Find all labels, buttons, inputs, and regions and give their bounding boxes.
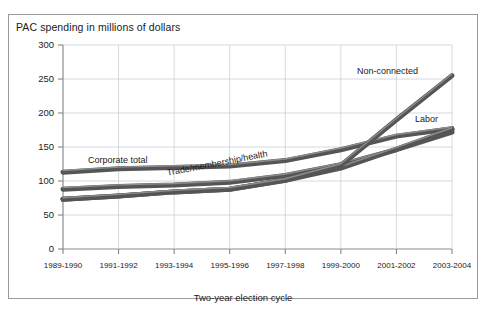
chart-figure: PAC spending in millions of dollars 3002… <box>0 0 486 319</box>
series-label-nonconnected: Non-connected <box>357 66 418 76</box>
x-tick-label: 1989-1990 <box>44 261 82 270</box>
y-tick-label: 0 <box>24 243 54 254</box>
x-axis-title: Two-year election cycle <box>0 292 486 303</box>
y-tick-label: 250 <box>24 73 54 84</box>
x-tick-label: 1991-1992 <box>99 261 137 270</box>
x-tick-label: 1993-1994 <box>155 261 193 270</box>
x-tick-label: 1995-1996 <box>211 261 249 270</box>
series-label-labor: Labor <box>415 114 438 124</box>
y-tick-label: 200 <box>24 107 54 118</box>
y-tick-label: 300 <box>24 39 54 50</box>
y-tick-label: 150 <box>24 141 54 152</box>
y-tick-label: 50 <box>24 209 54 220</box>
data-series <box>63 74 452 199</box>
x-tick-label: 2003-2004 <box>433 261 471 270</box>
x-tick-label: 1999-2000 <box>322 261 360 270</box>
x-tick-label: 1997-1998 <box>266 261 304 270</box>
series-label-corporate: Corporate total <box>88 155 148 165</box>
x-tick-label: 2001-2002 <box>377 261 415 270</box>
y-tick-label: 100 <box>24 175 54 186</box>
